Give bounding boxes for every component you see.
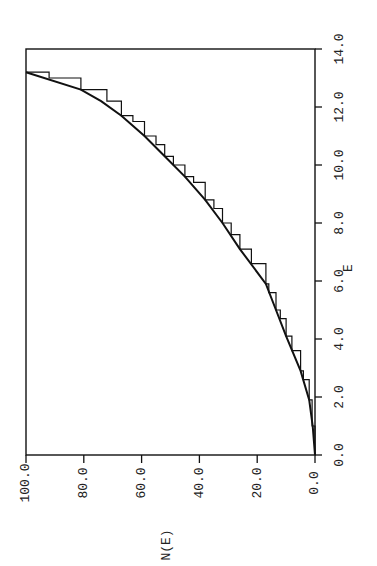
smooth-series <box>26 72 315 455</box>
e-axis-title: E <box>341 264 356 272</box>
n-tick-label: 20.0 <box>250 467 265 498</box>
e-axis-ticks <box>315 49 322 455</box>
e-tick-label: 14.0 <box>332 33 347 64</box>
e-tick-label: 10.0 <box>332 149 347 180</box>
e-tick-label: 4.0 <box>332 327 347 350</box>
n-axis-tick-labels: 0.020.040.060.080.0100.0 <box>18 463 322 502</box>
e-axis-tick-labels: 0.02.04.06.08.010.012.014.0 <box>332 33 347 466</box>
n-tick-label: 40.0 <box>192 467 207 498</box>
n-tick-label: 80.0 <box>76 467 91 498</box>
n-tick-label: 100.0 <box>18 463 33 502</box>
e-tick-label: 12.0 <box>332 91 347 122</box>
n-tick-label: 0.0 <box>307 471 322 494</box>
staircase-series <box>26 72 315 455</box>
e-tick-label: 8.0 <box>332 211 347 234</box>
n-axis-title: N(E) <box>159 529 174 560</box>
n-tick-label: 60.0 <box>134 467 149 498</box>
e-tick-label: 2.0 <box>332 385 347 408</box>
e-tick-label: 0.0 <box>332 443 347 466</box>
chart-plot: 0.02.04.06.08.010.012.014.0 0.020.040.06… <box>0 0 377 566</box>
n-axis-ticks <box>26 455 315 463</box>
plot-frame <box>26 49 315 455</box>
